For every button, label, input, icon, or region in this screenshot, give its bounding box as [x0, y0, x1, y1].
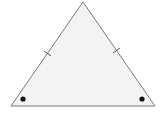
base-angle-dot-right [139, 96, 144, 101]
base-angle-dot-left [20, 96, 25, 101]
isosceles-triangle-diagram [0, 0, 165, 115]
triangle-shape [11, 2, 155, 106]
